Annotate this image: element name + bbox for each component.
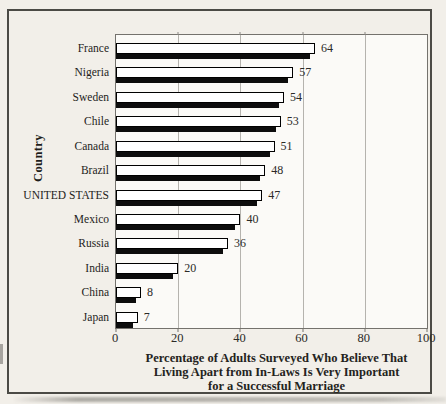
figure-canvas: Country France64Nigeria57Sweden54Chile53…	[0, 0, 446, 404]
bar-row: Canada51	[116, 133, 427, 157]
category-label: France	[78, 42, 116, 54]
value-label: 54	[290, 91, 302, 104]
bar-group: 51	[116, 141, 275, 152]
value-label: 20	[184, 262, 196, 275]
scan-edge-artifact	[0, 344, 3, 364]
x-axis-title: Percentage of Adults Surveyed Who Believ…	[118, 352, 435, 393]
bar-row: China8	[116, 279, 427, 303]
value-label: 36	[234, 237, 246, 250]
bar-row: Chile53	[116, 108, 427, 132]
x-axis-title-line-1: Percentage of Adults Surveyed Who Believ…	[118, 352, 435, 366]
category-label: UNITED STATES	[23, 189, 116, 201]
bar-row: Sweden54	[116, 84, 427, 108]
bar-group: 36	[116, 238, 228, 249]
category-label: China	[82, 286, 116, 298]
bar-group: 54	[116, 92, 284, 103]
bar	[116, 312, 138, 323]
bar-group: 40	[116, 214, 240, 225]
category-label: Japan	[83, 311, 116, 323]
x-axis-title-line-2: Living Apart from In-Laws Is Very Import…	[118, 366, 435, 380]
bar-row: Russia36	[116, 230, 427, 254]
bar-row: India20	[116, 255, 427, 279]
x-tick-label-100: 100	[417, 332, 436, 345]
value-label: 40	[246, 213, 258, 226]
bar-row: Mexico40	[116, 206, 427, 230]
bar	[116, 116, 281, 127]
bar-group: 48	[116, 165, 265, 176]
plot-area: France64Nigeria57Sweden54Chile53Canada51…	[115, 34, 428, 329]
bar	[116, 214, 240, 225]
value-label: 51	[281, 140, 293, 153]
bar-group: 47	[116, 190, 262, 201]
bar	[116, 165, 265, 176]
x-tick-label-0: 0	[112, 332, 118, 345]
bar-row: Japan7	[116, 304, 427, 328]
bar-group: 64	[116, 43, 315, 54]
value-label: 7	[144, 311, 150, 324]
category-label: India	[85, 262, 116, 274]
x-tick-label-80: 80	[358, 332, 371, 345]
bar-row: Brazil48	[116, 157, 427, 181]
bar	[116, 141, 275, 152]
category-label: Brazil	[81, 164, 116, 176]
category-label: Sweden	[73, 91, 116, 103]
value-label: 47	[268, 189, 280, 202]
value-label: 57	[299, 66, 311, 79]
x-tick-label-40: 40	[233, 332, 246, 345]
scan-shadow-artifact	[12, 397, 446, 402]
bar	[116, 92, 284, 103]
bar-row: UNITED STATES47	[116, 182, 427, 206]
value-label: 48	[271, 164, 283, 177]
bar	[116, 263, 178, 274]
bar-group: 57	[116, 67, 293, 78]
x-axis-tick-labels: 020406080100	[115, 332, 426, 346]
category-label: Mexico	[74, 213, 116, 225]
category-label: Nigeria	[75, 66, 116, 78]
x-axis-title-line-3: for a Successful Marriage	[118, 380, 435, 394]
bar-row: Nigeria57	[116, 59, 427, 83]
bar	[116, 43, 315, 54]
x-tick-label-60: 60	[295, 332, 308, 345]
x-tick-label-20: 20	[171, 332, 184, 345]
bar-group: 8	[116, 287, 141, 298]
bar-group: 20	[116, 263, 178, 274]
bar-row: France64	[116, 35, 427, 59]
bar	[116, 67, 293, 78]
bar	[116, 238, 228, 249]
category-label: Russia	[78, 237, 116, 249]
value-label: 64	[321, 42, 333, 55]
bar	[116, 190, 262, 201]
value-label: 8	[147, 286, 153, 299]
bar	[116, 287, 141, 298]
category-label: Chile	[84, 115, 116, 127]
y-axis-label: Country	[31, 134, 46, 182]
bar-group: 7	[116, 312, 138, 323]
category-label: Canada	[75, 140, 116, 152]
bar-group: 53	[116, 116, 281, 127]
value-label: 53	[287, 115, 299, 128]
